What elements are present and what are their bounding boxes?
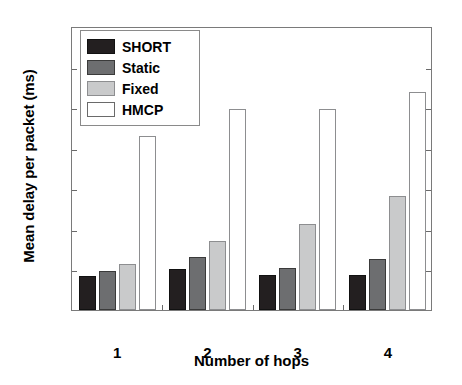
y-tick-mark xyxy=(426,231,431,232)
bar-hmcp-hops-1 xyxy=(139,136,156,310)
y-tick-mark xyxy=(72,231,77,232)
x-tick-label: 1 xyxy=(87,344,147,361)
bar-hmcp-hops-2 xyxy=(229,109,246,310)
y-tick-mark xyxy=(72,150,77,151)
x-tick-mark xyxy=(253,305,254,310)
bar-static-hops-4 xyxy=(369,259,386,310)
bar-static-hops-3 xyxy=(279,268,296,310)
y-axis-label: Mean delay per packet (ms) xyxy=(18,24,40,308)
bar-short-hops-1 xyxy=(79,276,96,310)
legend-item-label: Static xyxy=(122,61,160,75)
y-tick-mark xyxy=(72,109,77,110)
x-tick-label: 2 xyxy=(177,344,237,361)
bar-fixed-hops-3 xyxy=(299,224,316,310)
x-tick-label: 3 xyxy=(268,344,328,361)
y-tick-mark xyxy=(72,69,77,70)
legend-item-label: HMCP xyxy=(122,103,163,117)
bar-short-hops-2 xyxy=(169,269,186,310)
legend-swatch-icon xyxy=(87,102,115,117)
legend-swatch-icon xyxy=(87,39,115,54)
y-tick-mark xyxy=(426,190,431,191)
y-tick-mark xyxy=(426,271,431,272)
y-tick-mark xyxy=(426,150,431,151)
legend-item-label: SHORT xyxy=(122,40,171,54)
legend-item-fixed: Fixed xyxy=(87,78,193,99)
x-tick-mark xyxy=(343,305,344,310)
bar-static-hops-1 xyxy=(99,271,116,310)
bar-short-hops-4 xyxy=(349,275,366,311)
bar-fixed-hops-1 xyxy=(119,264,136,310)
bar-static-hops-2 xyxy=(189,257,206,310)
y-tick-mark xyxy=(72,271,77,272)
x-tick-label: 4 xyxy=(358,344,418,361)
legend-item-static: Static xyxy=(87,57,193,78)
y-tick-mark xyxy=(426,109,431,110)
legend-item-short: SHORT xyxy=(87,36,193,57)
legend-swatch-icon xyxy=(87,60,115,75)
bar-fixed-hops-4 xyxy=(389,196,406,310)
bar-chart-figure: Mean delay per packet (ms) Number of hop… xyxy=(0,0,462,385)
bar-short-hops-3 xyxy=(259,275,276,311)
y-tick-mark xyxy=(426,69,431,70)
x-tick-mark xyxy=(162,305,163,310)
y-tick-mark xyxy=(72,190,77,191)
legend-item-hmcp: HMCP xyxy=(87,99,193,120)
bar-hmcp-hops-4 xyxy=(409,92,426,310)
legend-item-label: Fixed xyxy=(122,82,159,96)
legend-swatch-icon xyxy=(87,81,115,96)
bar-fixed-hops-2 xyxy=(209,241,226,310)
chart-legend: SHORTStaticFixedHMCP xyxy=(80,30,200,126)
bar-hmcp-hops-3 xyxy=(319,109,336,310)
